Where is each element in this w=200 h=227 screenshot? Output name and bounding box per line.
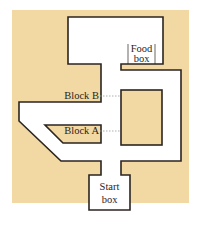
start-box-label-line2: box — [102, 194, 119, 205]
block-a-label: Block A — [64, 125, 99, 136]
inner-block — [121, 90, 162, 145]
start-box-label-line1: Start — [100, 181, 120, 192]
food-box-label-line2: box — [134, 53, 151, 64]
block-b-label: Block B — [64, 90, 99, 101]
maze-diagram: Food box Block B Block A Start box — [0, 0, 200, 227]
